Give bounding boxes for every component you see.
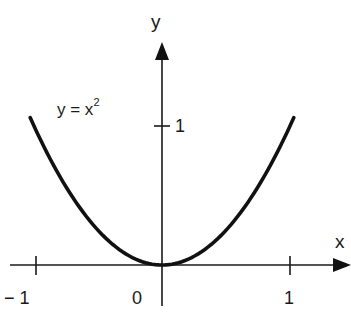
curve-equation-base: y = x [57, 100, 93, 119]
y-axis-arrow-icon [155, 42, 169, 60]
x-tick-label-0: 0 [132, 289, 142, 307]
x-axis-label: x [335, 232, 345, 251]
x-tick-label-neg1: − 1 [4, 289, 30, 307]
y-axis-label: y [151, 12, 161, 31]
parabola-chart [0, 0, 351, 315]
x-axis-arrow-icon [333, 258, 351, 272]
curve-equation-exponent: 2 [93, 96, 99, 108]
y-tick-label-1: 1 [175, 117, 185, 135]
x-tick-label-1: 1 [284, 289, 294, 307]
curve-equation-label: y = x2 [57, 99, 100, 118]
